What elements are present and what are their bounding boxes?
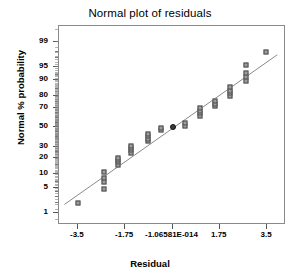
x-tick-major	[266, 224, 267, 229]
y-tick-label: 90	[8, 75, 48, 83]
x-tick-label: -3.5	[70, 230, 84, 239]
y-tick-minor	[55, 72, 58, 73]
chart-title: Normal plot of residuals	[0, 7, 300, 19]
y-tick-minor	[55, 91, 58, 92]
y-tick-minor	[55, 164, 58, 165]
y-tick-minor	[55, 173, 58, 174]
y-tick-minor	[55, 62, 58, 63]
y-tick-label: 50	[8, 122, 48, 130]
x-tick-major	[219, 224, 220, 229]
x-axis-title: Residual	[0, 258, 300, 269]
y-tick-minor	[55, 64, 58, 65]
y-tick-minor	[55, 41, 58, 42]
y-tick-label: 99	[8, 37, 48, 45]
y-tick-label: 20	[8, 153, 48, 161]
y-tick-minor	[55, 87, 58, 88]
y-tick-label: 1	[8, 208, 48, 216]
data-point	[198, 106, 203, 111]
y-tick-minor	[55, 79, 58, 80]
data-point	[183, 121, 188, 126]
y-tick-minor	[55, 188, 58, 189]
y-tick-minor	[55, 180, 58, 181]
y-tick-minor	[55, 174, 58, 175]
y-tick-minor	[55, 182, 58, 183]
y-tick-minor	[55, 84, 58, 85]
chart-canvas: Normal plot of residuals Normal % probab…	[0, 0, 300, 278]
y-tick-minor	[55, 70, 58, 71]
y-tick-minor	[55, 92, 58, 93]
y-tick-minor	[55, 85, 58, 86]
y-tick-minor	[55, 57, 58, 58]
data-point	[129, 143, 134, 148]
y-tick-major	[53, 212, 58, 213]
y-tick-minor	[55, 179, 58, 180]
data-point	[244, 70, 249, 75]
data-point	[101, 176, 106, 181]
y-tick-minor	[55, 56, 58, 57]
y-tick-minor	[55, 167, 58, 168]
y-tick-minor	[55, 204, 58, 205]
y-tick-minor	[55, 89, 58, 90]
y-tick-minor	[55, 88, 58, 89]
data-point	[101, 186, 106, 191]
y-tick-minor	[55, 184, 58, 185]
highlighted-data-point	[170, 124, 176, 130]
y-tick-minor	[55, 199, 58, 200]
y-tick-minor	[55, 190, 58, 191]
y-tick-minor	[55, 29, 58, 30]
data-point	[213, 99, 218, 104]
y-tick-minor	[55, 91, 58, 92]
y-tick-label: 95	[8, 62, 48, 70]
y-tick-minor	[55, 80, 58, 81]
y-tick-minor	[55, 86, 58, 87]
y-tick-minor	[55, 75, 58, 76]
x-tick-label: 1.75	[211, 230, 227, 239]
y-tick-minor	[55, 219, 58, 220]
y-tick-label: 70	[8, 103, 48, 111]
y-tick-minor	[55, 78, 58, 79]
y-tick-minor	[55, 66, 58, 67]
y-tick-minor	[55, 68, 58, 69]
x-tick-major	[124, 224, 125, 229]
data-point	[244, 62, 249, 67]
plot-inner	[59, 26, 284, 223]
y-tick-minor	[55, 59, 58, 60]
x-tick-label: -1.06581E-014	[145, 230, 198, 239]
y-tick-minor	[55, 164, 58, 165]
y-tick-minor	[55, 196, 58, 197]
y-tick-minor	[55, 185, 58, 186]
y-tick-minor	[55, 81, 58, 82]
y-tick-minor	[55, 193, 58, 194]
y-tick-label: 30	[8, 142, 48, 150]
data-point	[115, 155, 120, 160]
x-tick-label: 3.5	[261, 230, 272, 239]
y-tick-minor	[55, 47, 58, 48]
y-tick-minor	[55, 209, 58, 210]
y-tick-minor	[55, 172, 58, 173]
y-tick-minor	[55, 171, 58, 172]
y-tick-label: 10	[8, 169, 48, 177]
x-tick-major	[77, 224, 78, 229]
y-tick-minor	[55, 83, 58, 84]
y-tick-minor	[55, 52, 58, 53]
y-tick-minor	[55, 163, 58, 164]
plot-area	[58, 25, 285, 224]
y-tick-minor	[55, 90, 58, 91]
y-tick-minor	[55, 166, 58, 167]
y-tick-minor	[55, 76, 58, 77]
data-point	[227, 85, 232, 90]
data-point	[145, 131, 150, 136]
y-tick-minor	[55, 73, 58, 74]
x-tick-label: -1.75	[115, 230, 133, 239]
y-tick-label: 80	[8, 91, 48, 99]
data-point	[75, 200, 80, 205]
y-tick-minor	[55, 162, 58, 163]
data-point	[244, 79, 249, 84]
data-point	[101, 169, 106, 174]
y-tick-minor	[55, 176, 58, 177]
data-point	[159, 125, 164, 130]
y-tick-label: 5	[8, 183, 48, 191]
y-tick-minor	[55, 165, 58, 166]
y-tick-minor	[55, 168, 58, 169]
x-tick-major	[172, 224, 173, 229]
